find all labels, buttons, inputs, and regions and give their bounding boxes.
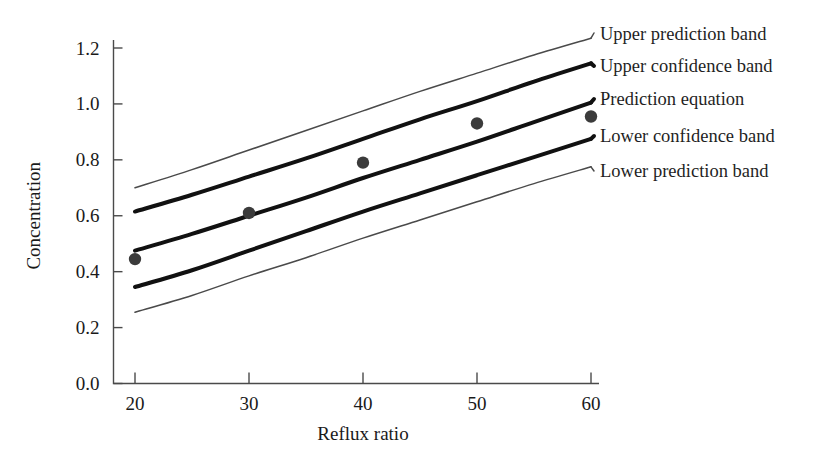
x-axis-title: Reflux ratio (317, 423, 408, 444)
x-tick-label: 60 (582, 393, 601, 414)
band-curve (135, 63, 591, 211)
legend-line-stubs (591, 33, 594, 171)
y-tick-label: 1.0 (76, 93, 100, 114)
legend-item-lower-prediction-band: Lower prediction band (600, 161, 769, 181)
chart-figure: 0.00.20.40.60.81.01.2 2030405060 Reflux … (0, 0, 826, 460)
legend-line-stub (591, 136, 594, 139)
chart-canvas: 0.00.20.40.60.81.01.2 2030405060 Reflux … (0, 0, 826, 460)
legend-line-stub (591, 63, 594, 66)
y-tick-label: 0.8 (76, 149, 100, 170)
band-curves (135, 38, 591, 312)
data-point (243, 207, 255, 219)
y-tick-label: 0.4 (76, 261, 100, 282)
band-curve (135, 167, 591, 312)
x-tick-label: 20 (126, 393, 145, 414)
legend-item-upper-confidence-band: Upper confidence band (600, 56, 773, 76)
legend-line-stub (591, 99, 594, 103)
y-tick-label: 0.2 (76, 317, 100, 338)
legend-item-prediction-equation: Prediction equation (600, 89, 744, 109)
x-tick-label: 50 (468, 393, 487, 414)
x-axis-ticks (135, 373, 591, 384)
band-curve (135, 103, 591, 251)
legend-item-upper-prediction-band: Upper prediction band (600, 24, 767, 44)
data-point (357, 156, 369, 168)
y-axis-title: Concentration (23, 161, 44, 269)
y-tick-label: 1.2 (76, 38, 100, 59)
legend-line-stub (591, 33, 594, 38)
y-tick-label: 0.6 (76, 205, 100, 226)
legend: Upper prediction band Upper confidence b… (600, 24, 775, 181)
data-point (585, 110, 597, 122)
y-tick-label: 0.0 (76, 373, 100, 394)
data-point (129, 253, 141, 265)
x-tick-label: 40 (354, 393, 373, 414)
legend-item-lower-confidence-band: Lower confidence band (600, 126, 775, 146)
data-point (471, 117, 483, 129)
data-points (129, 110, 597, 265)
y-tick-labels: 0.00.20.40.60.81.01.2 (76, 38, 100, 395)
x-tick-label: 30 (240, 393, 259, 414)
x-tick-labels: 2030405060 (126, 393, 601, 414)
legend-line-stub (591, 167, 594, 171)
y-axis-ticks (114, 48, 123, 384)
